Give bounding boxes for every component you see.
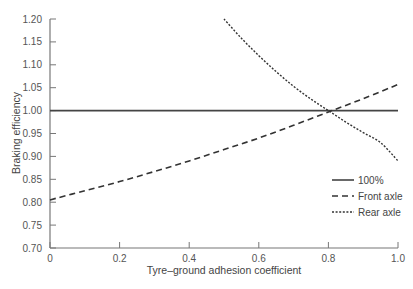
- y-axis-title: Braking efficiency: [10, 91, 22, 174]
- braking-efficiency-chart: 0.700.750.800.850.900.951.001.051.101.15…: [0, 0, 413, 289]
- y-tick-label: 0.80: [23, 197, 43, 208]
- x-tick-label: 0: [47, 253, 53, 264]
- x-tick-label: 0.4: [182, 253, 196, 264]
- legend: 100%Front axleRear axle: [332, 175, 403, 218]
- y-tick-label: 0.70: [23, 243, 43, 254]
- y-tick-label: 0.90: [23, 151, 43, 162]
- x-axis-title: Tyre–ground adhesion coefficient: [147, 264, 302, 276]
- y-tick-label: 1.05: [23, 82, 43, 93]
- x-tick-label: 0.2: [113, 253, 127, 264]
- x-axis: 00.20.40.60.81.0: [47, 242, 405, 264]
- x-tick-label: 0.8: [321, 253, 335, 264]
- y-tick-label: 0.85: [23, 174, 43, 185]
- y-tick-label: 1.00: [23, 105, 43, 116]
- y-tick-label: 1.10: [23, 59, 43, 70]
- y-tick-label: 0.95: [23, 128, 43, 139]
- series-layer: [50, 19, 398, 200]
- series-rear-axle: [224, 19, 398, 161]
- series-front-axle: [50, 84, 398, 199]
- x-tick-label: 1.0: [391, 253, 405, 264]
- legend-label: Front axle: [358, 191, 403, 202]
- y-axis: 0.700.750.800.850.900.951.001.051.101.15…: [23, 14, 56, 254]
- legend-label: Rear axle: [358, 207, 401, 218]
- legend-label: 100%: [358, 175, 384, 186]
- y-tick-label: 0.75: [23, 220, 43, 231]
- y-tick-label: 1.20: [23, 14, 43, 25]
- y-tick-label: 1.15: [23, 36, 43, 47]
- x-tick-label: 0.6: [252, 253, 266, 264]
